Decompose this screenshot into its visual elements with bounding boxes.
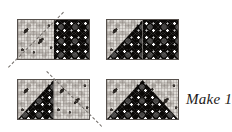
light-fabric-patch (18, 20, 54, 59)
unit-1-right-half (54, 20, 90, 59)
unit-3-right-half (54, 80, 90, 119)
unit-step-3 (17, 79, 90, 120)
quilt-piecing-diagram: Make 1 (0, 0, 232, 132)
unit-step-2 (106, 19, 179, 60)
unit-3-left-half (18, 80, 54, 119)
dark-fabric-patch (143, 20, 179, 59)
unit-step-4 (106, 79, 179, 120)
dark-fabric-patch (54, 20, 90, 59)
unit-2-left-half (107, 20, 143, 59)
unit-2-right-half (143, 20, 179, 59)
unit-1-left-half (18, 20, 54, 59)
unit-step-1 (17, 19, 90, 60)
make-count-caption: Make 1 (186, 92, 232, 107)
light-fabric-patch (54, 80, 90, 119)
